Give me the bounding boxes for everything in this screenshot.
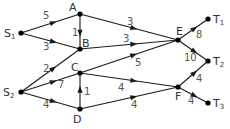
node-label: T1 — [212, 13, 224, 27]
node-a — [77, 11, 82, 16]
node-e — [175, 37, 180, 42]
edge-weight: 5 — [135, 57, 141, 68]
edge-weight: 1 — [84, 86, 90, 97]
node-t1 — [205, 16, 210, 21]
edge-weight: 4 — [196, 73, 202, 84]
edge-weight: 1 — [72, 27, 78, 38]
node-label: B — [82, 37, 90, 50]
node-label: F — [175, 90, 181, 103]
node-label: C — [71, 61, 79, 74]
node-s1 — [18, 30, 23, 35]
edge-weight: 8 — [196, 29, 202, 40]
edge-weight: 3 — [127, 16, 133, 27]
edge-weight: 7 — [58, 79, 64, 90]
edge-weight: 10 — [184, 52, 197, 63]
edge-weight: 5 — [43, 10, 49, 21]
edge-weight: 4 — [118, 82, 124, 93]
edge-weight: 3 — [43, 41, 49, 52]
node-t2 — [205, 58, 210, 63]
arrow-icon — [49, 38, 57, 45]
edge-c-f — [80, 73, 178, 87]
node-label: T3 — [212, 97, 224, 111]
node-label: S2 — [3, 86, 14, 100]
network-diagram: 53133527414481044 S1ABCDEFS2T1T2T3 — [0, 0, 230, 129]
arrow-icon — [49, 64, 58, 72]
edge-weight: 4 — [131, 99, 137, 110]
arrow-icon — [130, 41, 137, 47]
node-f — [175, 84, 180, 89]
edge-d-f — [80, 87, 178, 109]
node-label: A — [69, 1, 77, 14]
edge-weight: 4 — [43, 99, 49, 110]
node-s2 — [18, 89, 23, 94]
arrow-icon — [49, 98, 57, 105]
node-t3 — [205, 100, 210, 105]
node-d — [77, 106, 82, 111]
node-label: E — [176, 25, 183, 38]
node-label: T2 — [212, 55, 224, 69]
labels-layer: S1ABCDEFS2T1T2T3 — [3, 1, 224, 126]
node-label: D — [73, 113, 81, 126]
arrow-icon — [77, 86, 82, 93]
edge-weight: 2 — [43, 63, 49, 74]
edge-weight: 3 — [123, 33, 129, 44]
arrow-icon — [49, 19, 57, 26]
arrow-icon — [49, 78, 57, 85]
edge-weight: 4 — [188, 95, 194, 106]
node-label: S1 — [4, 27, 15, 41]
